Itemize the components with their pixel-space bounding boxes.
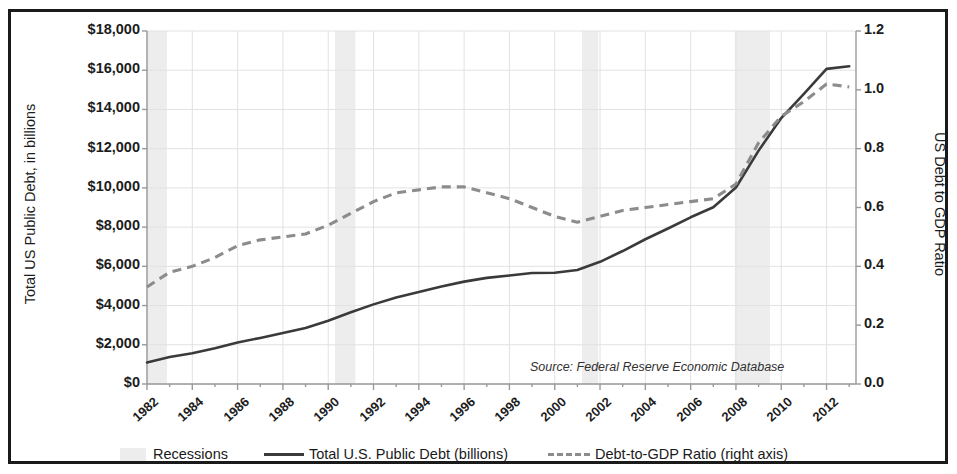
- y-tick-label-left: $18,000: [88, 21, 140, 37]
- y-tick-label-right: 0.2: [864, 315, 884, 331]
- y-tick-label-right: 0.4: [864, 256, 884, 272]
- dashed-line-swatch-icon: [548, 453, 590, 456]
- y-tick-label-right: 1.0: [864, 80, 884, 96]
- recession-band: [147, 31, 167, 384]
- y-tick-label-left: $8,000: [96, 217, 140, 233]
- y-axis-title-right: US Debt to GDP Ratio: [932, 24, 948, 384]
- chart-legend: Recessions Total U.S. Public Debt (billi…: [120, 441, 860, 467]
- y-tick-label-left: $2,000: [96, 335, 140, 351]
- y-tick-label-left: $12,000: [88, 139, 140, 155]
- y-axis-ticklabels-right: 1.21.00.80.60.40.20.0: [864, 0, 924, 474]
- recession-bands-group: [147, 31, 770, 384]
- y-tick-label-right: 1.2: [864, 21, 884, 37]
- legend-label-recessions: Recessions: [153, 446, 228, 462]
- y-tick-label-left: $10,000: [88, 178, 140, 194]
- legend-item-total-public-debt: Total U.S. Public Debt (billions): [228, 446, 508, 462]
- recession-band: [735, 31, 770, 384]
- recession-band-swatch-icon: [120, 448, 146, 461]
- source-annotation: Source: Federal Reserve Economic Databas…: [530, 360, 784, 374]
- y-tick-label-left: $14,000: [88, 99, 140, 115]
- chart-figure: Total US Public Debt, in billions US Deb…: [0, 0, 957, 474]
- y-tick-label-left: $16,000: [88, 60, 140, 76]
- y-tick-label-left: $4,000: [96, 296, 140, 312]
- legend-item-recessions: Recessions: [120, 446, 228, 462]
- legend-label-total-public-debt: Total U.S. Public Debt (billions): [309, 446, 508, 462]
- solid-line-swatch-icon: [264, 453, 304, 456]
- y-tick-label-left: $0: [124, 374, 140, 390]
- recession-band: [582, 31, 598, 384]
- legend-item-debt-to-gdp-ratio: Debt-to-GDP Ratio (right axis): [508, 446, 788, 462]
- y-tick-label-right: 0.6: [864, 198, 884, 214]
- recession-band: [335, 31, 355, 384]
- y-axis-ticklabels-left: $18,000$16,000$14,000$12,000$10,000$8,00…: [35, 0, 140, 474]
- y-tick-label-left: $6,000: [96, 256, 140, 272]
- y-tick-label-right: 0.8: [864, 139, 884, 155]
- legend-label-debt-to-gdp-ratio: Debt-to-GDP Ratio (right axis): [595, 446, 788, 462]
- y-tick-label-right: 0.0: [864, 374, 884, 390]
